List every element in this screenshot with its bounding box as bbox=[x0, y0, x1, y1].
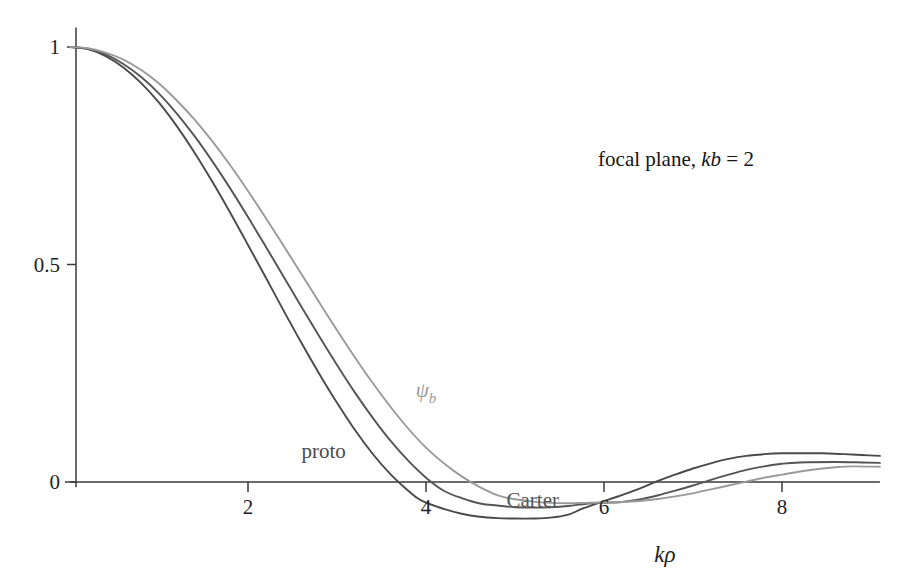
x-axis-title: kρ bbox=[654, 542, 675, 567]
y-tick-label-0.5: 0.5 bbox=[34, 253, 60, 277]
curve-proto bbox=[70, 47, 880, 519]
axes bbox=[65, 28, 880, 492]
x-tick-label-4: 4 bbox=[421, 495, 432, 519]
figure-canvas: 246800.51 protoCarterψb kρ focal plane, … bbox=[0, 0, 906, 584]
series-labels: protoCarterψb bbox=[301, 378, 559, 512]
x-tick-label-2: 2 bbox=[243, 495, 254, 519]
plot-annotation: focal plane, kb = 2 bbox=[598, 147, 754, 171]
line-chart: 246800.51 protoCarterψb kρ focal plane, … bbox=[0, 0, 906, 584]
curve-psi_b bbox=[70, 47, 880, 503]
series-label-Carter: Carter bbox=[507, 488, 559, 512]
y-tick-label-1: 1 bbox=[50, 35, 61, 59]
y-tick-label-0: 0 bbox=[50, 470, 61, 494]
x-tick-label-6: 6 bbox=[599, 495, 610, 519]
x-tick-label-8: 8 bbox=[777, 495, 788, 519]
data-curves bbox=[70, 47, 880, 519]
series-label-proto: proto bbox=[301, 439, 345, 463]
tick-labels: 246800.51 bbox=[34, 35, 788, 519]
series-label-psi_b: ψb bbox=[416, 378, 437, 406]
